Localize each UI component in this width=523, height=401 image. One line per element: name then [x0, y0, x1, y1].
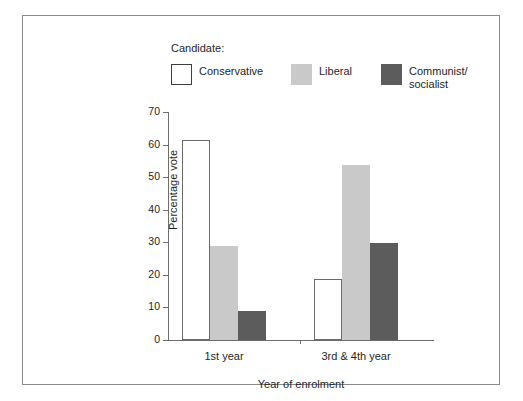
y-axis-tick-label: 70 — [148, 105, 160, 117]
legend-swatch-communist — [381, 64, 402, 85]
plot-area: 010203040506070 1st year3rd & 4th year P… — [168, 112, 433, 340]
chart-legend: Candidate: Conservative Liberal Communis… — [171, 42, 461, 102]
x-axis-title: Year of enrolment — [168, 378, 434, 390]
y-axis-tick-label: 10 — [148, 300, 160, 312]
y-axis-tick-label: 50 — [148, 170, 160, 182]
bar-liberal-group-0 — [210, 246, 238, 340]
y-axis-tick-label: 40 — [148, 203, 160, 215]
chart-figure: Candidate: Conservative Liberal Communis… — [0, 0, 523, 401]
legend-label-liberal: Liberal — [319, 65, 352, 78]
bar-communist-group-1 — [370, 243, 398, 340]
y-axis-tick-label: 0 — [154, 333, 160, 345]
bar-communist-group-0 — [238, 311, 266, 340]
x-axis-category-label: 1st year — [162, 350, 286, 362]
y-axis-title: Percentage vote — [167, 150, 179, 230]
x-axis-mid-tick — [300, 340, 301, 344]
y-axis-tick-mark — [163, 145, 168, 146]
legend-swatch-liberal — [291, 64, 312, 85]
chart-frame: Candidate: Conservative Liberal Communis… — [22, 15, 500, 385]
x-axis-category-label: 3rd & 4th year — [294, 350, 418, 362]
y-axis-tick-mark — [163, 275, 168, 276]
y-axis-tick-mark — [163, 307, 168, 308]
bar-conservative-group-1 — [314, 279, 342, 340]
y-axis-tick-label: 60 — [148, 138, 160, 150]
y-axis-tick-mark — [163, 242, 168, 243]
x-axis-line — [168, 340, 434, 341]
bar-conservative-group-0 — [182, 140, 210, 340]
y-axis-tick-label: 20 — [148, 268, 160, 280]
bar-liberal-group-1 — [342, 165, 370, 340]
y-axis-tick-label: 30 — [148, 235, 160, 247]
legend-title: Candidate: — [171, 42, 224, 54]
legend-swatch-conservative — [171, 64, 192, 85]
y-axis-tick-mark — [163, 340, 168, 341]
legend-label-conservative: Conservative — [199, 65, 263, 78]
legend-label-communist: Communist/ socialist — [409, 65, 468, 90]
y-axis-tick-mark — [163, 112, 168, 113]
